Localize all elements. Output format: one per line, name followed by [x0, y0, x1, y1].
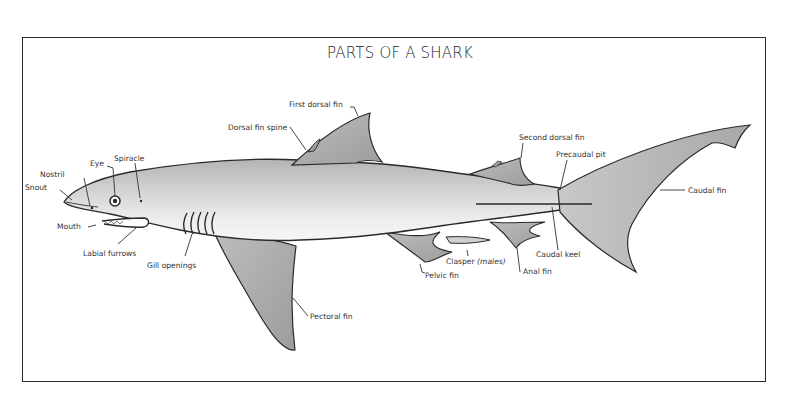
label-first-dorsal-fin: First dorsal fin — [289, 100, 343, 109]
mouth-leader — [88, 225, 96, 227]
label-clasper-text: Clasper — [446, 257, 476, 266]
label-caudal-keel: Caudal keel — [536, 250, 580, 259]
mouth-shape — [102, 218, 149, 227]
gill-openings-leader — [185, 234, 192, 256]
label-pectoral-fin: Pectoral fin — [310, 312, 353, 321]
caudal-fin-shape — [558, 125, 750, 272]
label-labial-furrows: Labial furrows — [83, 249, 136, 258]
label-second-dorsal-fin: Second dorsal fin — [519, 133, 585, 142]
label-nostril: Nostril — [40, 170, 65, 179]
second-dorsal-fin-leader — [521, 143, 523, 158]
label-clasper-note: (males) — [477, 257, 506, 266]
label-eye: Eye — [90, 159, 104, 168]
anal-fin-leader — [517, 248, 520, 272]
pectoral-fin-shape — [214, 232, 296, 350]
caudal-keel-leader — [552, 207, 558, 250]
pelvic-fin-shape — [385, 232, 452, 262]
clasper-shape — [446, 237, 490, 244]
label-anal-fin: Anal fin — [523, 267, 552, 276]
first-dorsal-fin-leader — [350, 107, 358, 116]
label-caudal-fin: Caudal fin — [688, 186, 727, 195]
dorsal-fin-spine-leader — [290, 127, 306, 150]
label-dorsal-fin-spine: Dorsal fin spine — [228, 123, 287, 132]
nostril-icon — [91, 207, 94, 210]
label-spiracle: Spiracle — [114, 154, 145, 163]
label-snout: Snout — [25, 183, 47, 192]
eye-icon — [110, 196, 120, 206]
label-pelvic-fin: Pelvic fin — [425, 271, 459, 280]
label-mouth: Mouth — [57, 222, 81, 231]
clasper-leader — [467, 250, 468, 256]
pectoral-fin-leader — [293, 298, 308, 316]
spiracle-icon — [140, 200, 142, 202]
label-clasper: Clasper (males) — [446, 257, 506, 266]
shark-diagram: Snout Nostril Eye Spiracle Mouth Labial … — [0, 0, 800, 403]
label-precaudal-pit: Precaudal pit — [556, 150, 606, 159]
label-gill-openings: Gill openings — [147, 261, 196, 270]
first-dorsal-fin-shape — [292, 113, 382, 165]
labial-furrows-leader — [118, 228, 136, 244]
anal-fin-shape — [490, 222, 545, 248]
